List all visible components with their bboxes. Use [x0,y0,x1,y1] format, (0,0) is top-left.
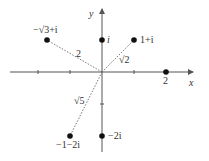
modulus-line-neg-sqrt3-plus-i [47,40,102,72]
point-neg-2i [99,133,105,139]
point-i [99,37,105,43]
label-neg-one-minus-2i: −1−2i [56,139,80,150]
modulus-label-2: 2 [76,48,81,59]
point-neg-sqrt3-plus-i [44,37,50,43]
complex-plane-diagram: x y i 1+i −√3+i 2 −1−2i −2i 2 √2 √5 [0,0,209,161]
point-two [163,69,169,75]
point-neg-one-minus-2i [67,133,73,139]
label-two: 2 [163,75,168,86]
point-one-plus-i [131,37,137,43]
label-neg-sqrt3-plus-i: −√3+i [33,24,58,35]
x-axis-label: x [188,77,194,88]
label-i: i [107,34,110,45]
y-axis-label: y [88,8,94,19]
modulus-label-sqrt5: √5 [74,95,85,106]
modulus-label-sqrt2: √2 [119,54,130,65]
label-neg-2i: −2i [108,130,122,141]
label-one-plus-i: 1+i [140,34,154,45]
